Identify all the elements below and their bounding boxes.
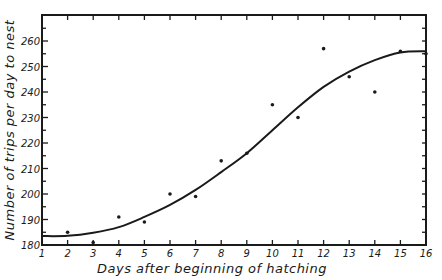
x-tick-label: 9	[244, 248, 250, 259]
data-point	[271, 103, 275, 107]
data-point	[399, 49, 403, 53]
x-tick-label: 16	[420, 248, 433, 259]
data-points	[66, 47, 428, 244]
data-point	[373, 90, 377, 94]
y-tick-label: 260	[21, 36, 40, 47]
data-point	[143, 220, 147, 224]
y-tick-label: 210	[21, 164, 40, 175]
x-tick-label: 7	[192, 248, 199, 259]
plot-border	[42, 15, 426, 245]
data-point	[347, 75, 351, 79]
x-tick-label: 5	[141, 248, 147, 259]
data-point	[219, 159, 223, 163]
x-axis-title: Days after beginning of hatching	[97, 261, 327, 276]
x-tick-label: 13	[343, 248, 356, 259]
data-point	[245, 151, 249, 155]
y-axis-title: Number of trips per day to nest	[2, 19, 17, 240]
fitted-curve-line	[42, 51, 426, 236]
x-tick-label: 2	[64, 248, 70, 259]
data-point	[168, 192, 172, 196]
x-tick-label: 10	[266, 248, 279, 259]
y-tick-label: 230	[21, 113, 40, 124]
fitted-curve	[42, 51, 426, 236]
x-tick-label: 3	[90, 248, 96, 259]
chart-figure: 1234567891011121314151618019020021022023…	[0, 0, 442, 280]
data-point	[296, 116, 300, 120]
y-tick-label: 240	[21, 87, 40, 98]
x-tick-label: 8	[218, 248, 224, 259]
axis-ticks	[42, 15, 426, 245]
y-tick-label: 200	[21, 189, 40, 200]
x-tick-label: 12	[317, 248, 330, 259]
plot-frame	[42, 15, 426, 245]
data-point	[322, 47, 326, 51]
data-point	[66, 230, 70, 234]
x-tick-label: 4	[116, 248, 122, 259]
axis-tick-labels: 1234567891011121314151618019020021022023…	[21, 36, 432, 259]
x-tick-label: 14	[368, 248, 381, 259]
data-point	[91, 241, 95, 245]
x-tick-label: 11	[292, 248, 305, 259]
data-point	[117, 215, 121, 219]
data-point	[194, 195, 198, 199]
x-tick-label: 15	[394, 248, 407, 259]
y-tick-label: 180	[21, 240, 40, 251]
y-tick-label: 250	[21, 62, 40, 73]
y-tick-label: 220	[21, 138, 40, 149]
data-point	[424, 52, 428, 56]
x-tick-label: 6	[167, 248, 173, 259]
y-tick-label: 190	[21, 215, 40, 226]
